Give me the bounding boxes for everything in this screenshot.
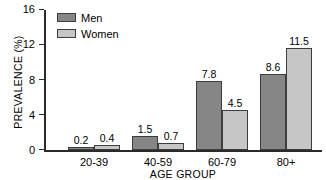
bar-men-60-79: 7.8 (196, 81, 222, 150)
bar-women-80-plus: 11.5 (286, 48, 312, 150)
bar-value-label: 11.5 (289, 35, 309, 47)
legend-item-men: Men (57, 11, 119, 24)
bar-value-label: 0.7 (164, 130, 179, 142)
bar-women-60-79: 4.5 (222, 110, 248, 150)
bar-value-label: 4.5 (228, 97, 243, 109)
y-tick-label: 4 (29, 109, 35, 121)
legend-label-women: Women (81, 28, 119, 40)
legend: Men Women (57, 11, 119, 43)
x-axis-line (44, 150, 322, 152)
bar-women-20-39: 0.4 (94, 145, 120, 150)
prevalence-bar-chart: PREVALENCE (%) 0 4 8 12 16 0.2 0.4 1.5 (0, 0, 326, 180)
y-tick-0: 0 (39, 149, 44, 150)
bar-value-label: 0.4 (100, 132, 115, 144)
bar-value-label: 7.8 (202, 68, 217, 80)
y-axis-title: PREVALENCE (%) (12, 12, 24, 152)
bar-men-40-59: 1.5 (132, 136, 158, 151)
y-tick-label: 8 (29, 74, 35, 86)
legend-swatch-women-icon (57, 29, 76, 38)
y-tick-16: 16 (39, 9, 44, 10)
y-tick-12: 12 (39, 44, 44, 45)
x-category-label-3: 60-79 (208, 156, 236, 168)
y-tick-8: 8 (39, 79, 44, 80)
bar-value-label: 8.6 (266, 61, 281, 73)
legend-label-men: Men (81, 12, 102, 24)
y-tick-label: 0 (29, 144, 35, 156)
x-category-label-4: 80+ (277, 156, 296, 168)
x-category-label-2: 40-59 (144, 156, 172, 168)
y-axis-line (44, 10, 46, 152)
bar-value-label: 1.5 (138, 123, 153, 135)
y-tick-label: 16 (23, 3, 35, 15)
bar-value-label: 0.2 (74, 134, 89, 146)
bar-women-40-59: 0.7 (158, 143, 184, 151)
y-tick-4: 4 (39, 114, 44, 115)
bar-men-80-plus: 8.6 (260, 74, 286, 150)
legend-swatch-men-icon (57, 13, 76, 22)
bar-men-20-39: 0.2 (68, 147, 94, 150)
y-tick-label: 12 (23, 38, 35, 50)
legend-item-women: Women (57, 27, 119, 40)
x-category-label-1: 20-39 (80, 156, 108, 168)
x-axis-title: AGE GROUP (44, 168, 322, 180)
